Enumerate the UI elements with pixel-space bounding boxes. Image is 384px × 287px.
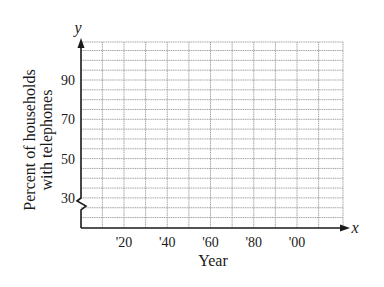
grid-lines [81, 42, 343, 228]
x-axis-title: Year [198, 252, 228, 269]
x-tick-label: '60 [202, 235, 219, 250]
y-axis-symbol: y [72, 19, 82, 37]
y-axis-title-line-2: with telephones [38, 69, 55, 210]
x-tick-label: '20 [116, 235, 133, 250]
y-axis-line [77, 44, 86, 228]
tick-labels: '20'40'60'80'0090705030Yearxy [61, 19, 359, 269]
x-axis-arrow-icon [340, 225, 350, 232]
x-axis-symbol: x [350, 219, 358, 236]
y-axis-title-line-1: Percent of households [21, 69, 38, 210]
x-tick-label: '00 [289, 235, 306, 250]
y-axis-title: Percent of households with telephones [8, 40, 68, 240]
y-axis-arrow-icon [78, 38, 85, 48]
chart: '20'40'60'80'0090705030Yearxy Percent of… [0, 0, 384, 287]
x-tick-label: '40 [159, 235, 176, 250]
x-tick-label: '80 [245, 235, 262, 250]
axes [77, 38, 350, 232]
